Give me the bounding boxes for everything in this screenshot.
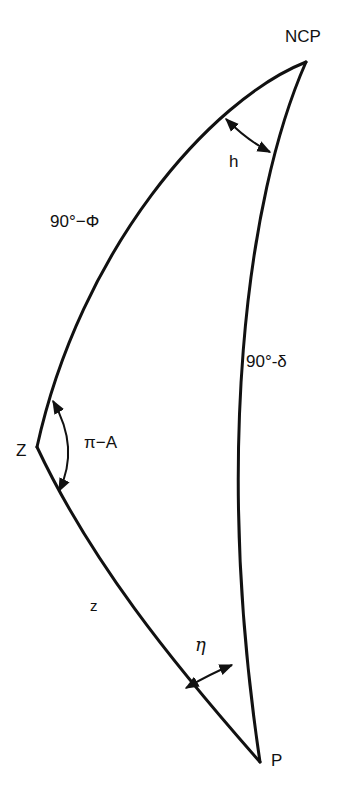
angle-label-parallactic: η (195, 636, 206, 654)
azimuth-angle-arrow (53, 401, 68, 491)
side-zenith-object (37, 447, 260, 762)
side-label-codeclination: 90°-δ (246, 353, 287, 370)
vertex-label-ncp: NCP (285, 28, 321, 45)
side-label-colatitude: 90°−Φ (50, 213, 99, 230)
angle-label-azimuth: π−A (84, 434, 117, 451)
parallactic-angle-arrow (186, 665, 232, 688)
vertex-label-object: P (271, 752, 282, 769)
hour-angle-arrow (226, 119, 270, 152)
angle-label-hour-angle: h (229, 153, 238, 170)
spherical-triangle-diagram (0, 0, 337, 794)
vertex-label-zenith: Z (16, 442, 26, 459)
side-ncp-zenith (37, 62, 306, 447)
side-ncp-object (238, 62, 306, 762)
side-label-zenith-distance: z (90, 598, 98, 613)
